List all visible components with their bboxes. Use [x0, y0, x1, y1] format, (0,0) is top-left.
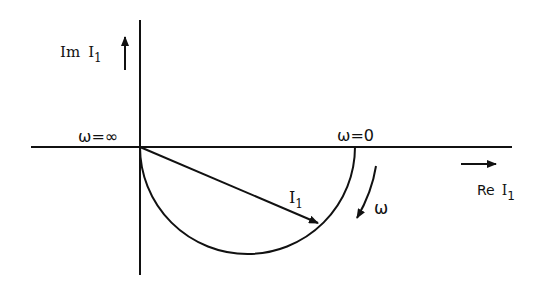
- omega-zero-label: ω=0: [337, 126, 374, 145]
- locus-semicircle: [140, 147, 355, 254]
- imag-axis-label: ImI1: [60, 43, 102, 65]
- phasor-arrow: [140, 147, 318, 223]
- omega-direction-label: ω: [374, 198, 388, 218]
- real-axis-label: ReI1: [477, 182, 515, 203]
- phasor-locus-diagram: ImI1 ReI1 ω=∞ ω=0 I1 ω: [0, 0, 543, 285]
- omega-infinity-label: ω=∞: [78, 127, 118, 146]
- phasor-label: I1: [289, 188, 303, 211]
